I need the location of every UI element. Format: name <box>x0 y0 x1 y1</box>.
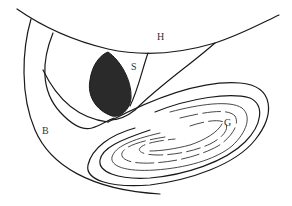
curve-h <box>17 9 279 53</box>
label-s: S <box>131 61 137 72</box>
label-b: B <box>42 125 49 136</box>
g-contour <box>122 112 237 164</box>
g-contour <box>139 121 226 155</box>
dark-region <box>89 52 131 116</box>
g-contour <box>112 104 247 171</box>
label-g: G <box>224 117 231 128</box>
label-h: H <box>157 31 164 42</box>
anatomical-diagram: H S B G <box>0 0 292 206</box>
